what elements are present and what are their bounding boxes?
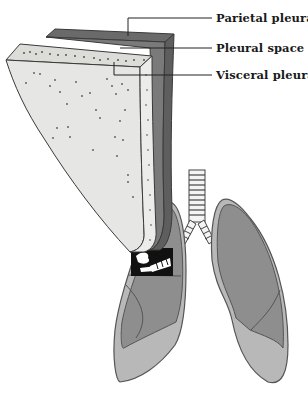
pleura-diagram: [0, 0, 308, 402]
left-lung: [211, 199, 288, 383]
label-pleural-space: Pleural space: [216, 41, 304, 55]
label-parietal-pleura: Parietal pleura: [216, 11, 308, 25]
label-visceral-pleura: Visceral pleura: [216, 68, 308, 82]
trachea: [180, 170, 214, 244]
